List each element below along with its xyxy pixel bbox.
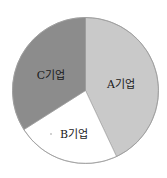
slice-label-c: C기업 xyxy=(37,69,65,82)
slice-label-b: B기업 xyxy=(60,128,88,141)
pie-chart: A기업 B기업 C기업 xyxy=(0,0,167,178)
marker-dot xyxy=(50,133,52,135)
pie-slices xyxy=(12,18,158,164)
slice-label-a: A기업 xyxy=(106,78,135,91)
